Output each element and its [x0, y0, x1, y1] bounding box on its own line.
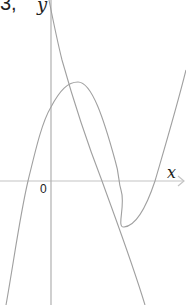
cubic-curve — [6, 70, 186, 305]
cropped-problem-text: 3, — [0, 0, 17, 15]
diagram-canvas — [0, 0, 186, 305]
origin-label: 0 — [40, 182, 47, 196]
descending-curve — [49, 0, 145, 305]
x-axis-label: x — [167, 163, 176, 182]
y-axis-label: y — [37, 0, 47, 15]
